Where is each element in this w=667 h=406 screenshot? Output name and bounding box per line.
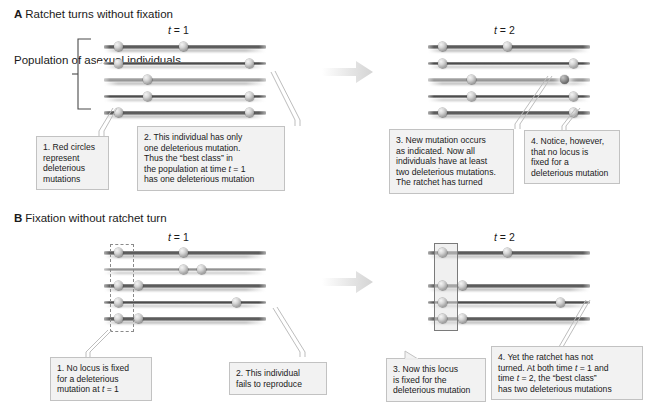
callout-a2-line-3: Thus the “best class” in	[144, 153, 278, 164]
chromosome-left-fade	[98, 250, 110, 256]
chromosome-bar	[104, 78, 266, 82]
transition-arrow-a	[320, 58, 376, 88]
mutation-circle	[438, 42, 447, 51]
chromosome-right-fade	[583, 93, 599, 101]
panel-b-t2-label: t = 2	[494, 231, 515, 243]
mutation-circle	[179, 42, 188, 51]
chromosome-left-fade	[98, 283, 110, 289]
chromosome-right-fade	[583, 299, 599, 307]
chromosome-left-fade	[422, 250, 434, 256]
mutation-circle	[134, 281, 143, 290]
chromosome-right-fade	[259, 60, 275, 68]
panel-b-t1-label: t = 1	[168, 231, 189, 243]
callout-a4-line-2: that no locus is	[531, 147, 613, 158]
callout-a3-line-2: as indicated. Now all	[396, 146, 507, 157]
chromosome-shadow	[429, 99, 589, 102]
chromosome-shadow	[105, 115, 265, 118]
chromosome-row	[104, 75, 266, 84]
transition-arrow-b	[320, 268, 376, 298]
chromosome-left-fade	[422, 44, 434, 50]
panel-b-title: Fixation without ratchet turn	[25, 212, 166, 224]
chromosome-right-fade	[259, 76, 275, 84]
chromosome-bar	[104, 62, 266, 66]
callout-b3-pointer	[404, 350, 424, 360]
new-mutation-circle	[560, 75, 569, 84]
callout-b4: 4. Yet the ratchet has not turned. At bo…	[491, 346, 643, 400]
callout-b3: 3. Now this locus is fixed for the delet…	[386, 358, 486, 402]
callout-b4-line-4: has two deleterious mutations	[498, 384, 636, 395]
mutation-circle	[114, 108, 123, 117]
chromosome-left-fade	[422, 77, 434, 83]
mutation-circle	[114, 42, 123, 51]
chromosome-left-fade	[98, 316, 110, 322]
mutation-circle	[245, 59, 254, 68]
chromosome-row	[428, 59, 590, 68]
callout-a3-line-1: 3. New mutation occurs	[396, 135, 507, 146]
chromosome-row	[428, 92, 590, 101]
callout-a2-line-2: one deleterious mutation.	[144, 143, 278, 154]
mutation-circle	[438, 248, 447, 257]
chromosome-bar	[428, 62, 590, 66]
chromosome-left-fade	[422, 110, 434, 116]
chromosome-left-fade	[98, 44, 110, 50]
mutation-circle	[179, 265, 188, 274]
callout-a1-line-1: 1. Red circles	[43, 142, 102, 153]
callout-b4-line-2: turned. At both time t = 1 and	[498, 363, 636, 374]
chromosome-left-fade	[98, 110, 110, 116]
chromosome-right-fade	[259, 93, 275, 101]
callout-a4-line-1: 4. Notice, however,	[531, 136, 613, 147]
callout-a2-line-1: 2. This individual has only	[144, 132, 278, 143]
callout-a1-line-2: represent	[43, 153, 102, 164]
population-bracket	[72, 38, 94, 110]
chromosome-right-fade	[583, 43, 599, 51]
callout-a2-line-5: has one deleterious mutation	[144, 174, 278, 185]
callout-b1-line-2: for a deleterious	[57, 374, 145, 385]
callout-a2-line-4: the population at time t = 1	[144, 164, 278, 175]
callout-a1-line-3: deleterious	[43, 163, 102, 174]
mutation-circle	[197, 265, 206, 274]
callout-b4-line-1: 4. Yet the ratchet has not	[498, 352, 636, 363]
chromosome-shadow	[105, 66, 265, 69]
chromosome-right-fade	[259, 299, 275, 307]
callout-a4: 4. Notice, however, that no locus is fix…	[524, 130, 620, 184]
chromosome-right-fade	[259, 249, 275, 257]
chromosome-right-fade	[259, 282, 275, 290]
panel-a-letter: A	[14, 8, 22, 20]
mutation-circle	[438, 281, 447, 290]
chromosome-row	[104, 59, 266, 68]
callout-a3-line-3: individuals have at least	[396, 156, 507, 167]
mutation-circle	[438, 298, 447, 307]
callout-a3-line-5: The ratchet has turned	[396, 177, 507, 188]
chromosome-bar	[104, 95, 266, 99]
callout-a1: 1. Red circles represent deleterious mut…	[36, 136, 109, 190]
callout-a4-line-3: fixed for a	[531, 157, 613, 168]
callout-b3-line-3: deleterious mutation	[393, 385, 479, 396]
callout-b2: 2. This individual fails to reproduce	[229, 362, 327, 395]
callout-a4-line-4: deleterious mutation	[531, 168, 613, 179]
chromosome-row	[104, 108, 266, 117]
population-label-line-1: Population	[14, 54, 68, 66]
mutation-circle	[458, 314, 467, 323]
chromosome-left-fade	[422, 300, 434, 306]
chromosome-bar	[428, 111, 590, 115]
chromosome-left-fade	[98, 77, 110, 83]
callout-b1: 1. No locus is fixed for a deleterious m…	[50, 357, 152, 401]
mutation-circle	[245, 92, 254, 101]
mutation-circle	[114, 281, 123, 290]
mutation-circle	[232, 298, 241, 307]
chromosome-left-fade	[98, 300, 110, 306]
chromosome-right-fade	[259, 109, 275, 117]
chromosome-row	[104, 42, 266, 51]
chromosome-right-fade	[259, 43, 275, 51]
chromosome-right-fade	[583, 109, 599, 117]
mutation-circle	[503, 42, 512, 51]
mutation-circle	[134, 314, 143, 323]
chromosome-shadow	[429, 66, 589, 69]
mutation-circle	[114, 248, 123, 257]
chromosome-left-fade	[422, 283, 434, 289]
callout-a3: 3. New mutation occurs as indicated. Now…	[389, 129, 514, 194]
mutation-circle	[114, 59, 123, 68]
panel-a-t2-label: t = 2	[494, 24, 515, 36]
mutation-circle	[569, 92, 578, 101]
mutation-circle	[179, 248, 188, 257]
